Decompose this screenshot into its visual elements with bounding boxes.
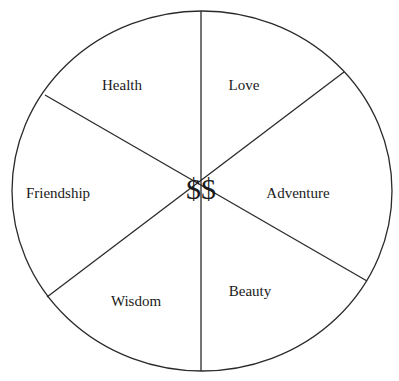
segment-label-adventure: Adventure	[266, 185, 330, 201]
segment-label-beauty: Beauty	[229, 283, 272, 299]
segment-label-friendship: Friendship	[26, 185, 90, 201]
segment-label-love: Love	[229, 77, 260, 93]
values-wheel-diagram: Love Adventure Beauty Wisdom Friendship …	[0, 0, 399, 381]
segment-label-health: Health	[102, 77, 142, 93]
segment-label-wisdom: Wisdom	[111, 293, 162, 309]
center-label-money: $$	[186, 172, 216, 205]
